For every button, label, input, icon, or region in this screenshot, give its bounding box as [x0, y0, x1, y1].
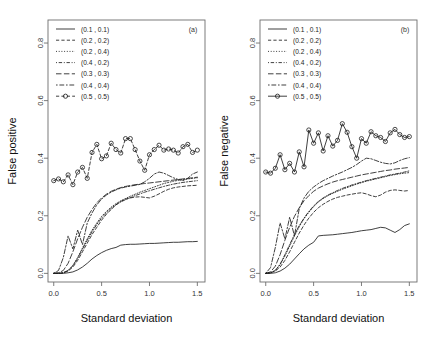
y-axis-title: False positive [6, 117, 18, 184]
plot-false-positive: 0.00.20.40.60.80.00.51.01.5Standard devi… [0, 0, 212, 337]
legend-label-2: (0.2 , 0.4) [293, 48, 321, 56]
series-line [266, 167, 410, 273]
series-marker [176, 151, 180, 155]
x-axis-title: Standard deviation [293, 312, 385, 324]
series-line [54, 177, 198, 273]
x-tick-label: 0.0 [261, 289, 271, 298]
series-line [54, 181, 198, 274]
series-line [54, 139, 198, 185]
y-tick-label: 0.6 [249, 95, 258, 105]
x-tick-label: 0.5 [96, 289, 106, 298]
y-axis-title: False negative [218, 115, 230, 187]
x-tick-label: 1.5 [404, 289, 414, 298]
x-tick-label: 0.0 [49, 289, 59, 298]
plot-frame [260, 20, 417, 282]
y-tick-label: 0.8 [37, 38, 46, 48]
figure-container: 0.00.20.40.60.80.00.51.01.5Standard devi… [0, 0, 424, 337]
series-line [266, 190, 410, 273]
y-tick-label: 0.2 [249, 211, 258, 221]
panel-false-negative: 0.00.20.40.60.80.00.51.01.5Standard devi… [212, 0, 424, 337]
legend-label-1: (0.2 , 0.2) [81, 37, 109, 45]
legend-label-5: (0.4 , 0.4) [293, 82, 321, 90]
series-marker [157, 143, 161, 147]
y-tick-label: 0.0 [249, 268, 258, 278]
panel-tag: (b) [401, 26, 410, 34]
legend-label-6: (0.5 , 0.5) [81, 93, 109, 101]
legend-label-4: (0.3 , 0.3) [81, 70, 109, 78]
y-tick-label: 0.6 [37, 95, 46, 105]
y-tick-label: 0.4 [249, 153, 258, 163]
x-axis-title: Standard deviation [81, 312, 173, 324]
y-tick-label: 0.8 [249, 38, 258, 48]
legend-label-6: (0.5 , 0.5) [293, 93, 321, 101]
legend-label-1: (0.2 , 0.2) [293, 37, 321, 45]
x-tick-label: 1.0 [144, 289, 154, 298]
legend-label-0: (0.1 , 0.1) [81, 26, 109, 34]
legend-label-5: (0.4 , 0.4) [81, 82, 109, 90]
legend-label-2: (0.2 , 0.4) [81, 48, 109, 56]
series-line [266, 171, 410, 273]
y-tick-label: 0.0 [37, 268, 46, 278]
y-tick-label: 0.4 [37, 153, 46, 163]
plot-frame [48, 20, 205, 282]
series-marker [195, 148, 199, 152]
y-tick-label: 0.2 [37, 211, 46, 221]
series-line [54, 172, 198, 273]
series-line [266, 224, 410, 274]
legend-label-4: (0.3 , 0.3) [293, 70, 321, 78]
x-tick-label: 1.5 [192, 289, 202, 298]
panel-false-positive: 0.00.20.40.60.80.00.51.01.5Standard devi… [0, 0, 212, 337]
series-line [266, 173, 410, 274]
series-line [54, 178, 198, 274]
legend-label-0: (0.1 , 0.1) [293, 26, 321, 34]
x-tick-label: 1.0 [356, 289, 366, 298]
x-tick-label: 0.5 [308, 289, 318, 298]
legend-label-3: (0.4 , 0.2) [293, 59, 321, 67]
plot-false-negative: 0.00.20.40.60.80.00.51.01.5Standard devi… [212, 0, 424, 337]
series-line [266, 124, 410, 174]
panel-tag: (a) [189, 26, 198, 34]
legend-label-3: (0.4 , 0.2) [81, 59, 109, 67]
